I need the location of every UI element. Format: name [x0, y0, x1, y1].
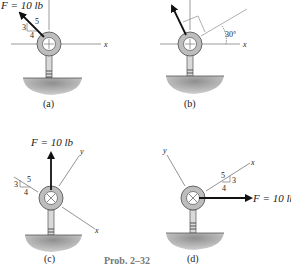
force-label: F = 10 lb	[252, 192, 291, 204]
slope-run: 4	[222, 184, 226, 193]
y-axis-label: y	[79, 147, 84, 156]
caption: (a)	[43, 98, 54, 110]
force-label-text: F = 10 lb	[30, 136, 73, 148]
x-axis-label: x	[103, 40, 108, 49]
force-label-text: F = 10 lb	[0, 0, 43, 11]
slope-run: 4	[24, 188, 28, 197]
bolt-shank	[46, 55, 52, 78]
figure-canvas: x F = 10 lb 3 4 5 (a) x 30°	[0, 0, 291, 276]
y-axis	[59, 156, 79, 186]
y-axis-label: y	[162, 146, 167, 155]
force-arrow	[172, 6, 186, 35]
force-label: F = 10 lb	[0, 0, 43, 11]
problem-label: Prob. 2–32	[104, 255, 150, 266]
slope-hyp: 5	[221, 171, 225, 180]
bolt-shank	[190, 210, 196, 233]
caption: (c)	[44, 253, 55, 265]
slope-hyp: 5	[35, 17, 39, 26]
x-axis	[62, 207, 95, 229]
force-label-text: F = 10 lb	[252, 192, 291, 204]
right-angle-box	[183, 16, 205, 32]
ground-block	[23, 78, 82, 95]
panel-c: y x 3 4 5 F = 10 lb (c)	[14, 136, 99, 265]
y-axis	[167, 155, 185, 186]
panel-d: y x 5 3 4 F = 10 lb (d)	[162, 146, 291, 265]
x-axis-label: x	[250, 158, 255, 167]
caption: (b)	[184, 98, 196, 110]
panel-a: x F = 10 lb 3 4 5 (a)	[0, 0, 108, 110]
caption: (d)	[187, 253, 199, 265]
x-axis-label: x	[94, 226, 99, 235]
ground-block	[166, 233, 224, 250]
panel-b: x 30° F = 10 lb (b)	[129, 0, 247, 110]
slope-hyp: 5	[27, 175, 31, 184]
force-label: F = 10 lb	[30, 136, 73, 148]
x-axis-label: x	[242, 40, 247, 49]
bolt-shank	[48, 210, 54, 235]
inclined-line	[201, 9, 247, 36]
slope-run: 4	[30, 31, 34, 40]
slope-rise: 3	[232, 176, 236, 185]
slope-rise: 3	[14, 180, 18, 189]
slope-rise: 3	[22, 23, 26, 32]
angle-label: 30°	[225, 30, 236, 39]
ground-block	[166, 76, 224, 94]
x-axis	[206, 163, 250, 191]
ground-block	[25, 235, 82, 252]
